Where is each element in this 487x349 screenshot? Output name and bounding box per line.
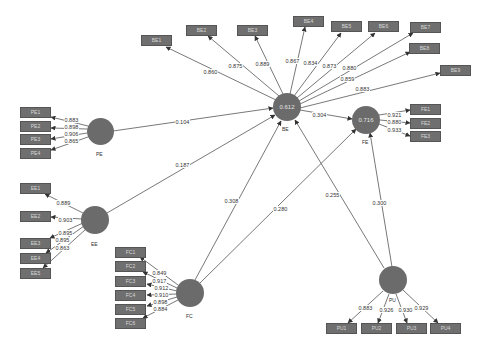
loading-label: 0.867 bbox=[285, 58, 300, 64]
loading-label: 0.883 bbox=[358, 305, 373, 311]
loading-label: 0.889 bbox=[56, 200, 71, 206]
path-coef-ee-be: 0.187 bbox=[175, 162, 190, 168]
loading-label: 0.859 bbox=[340, 76, 355, 82]
path-coef-pu-be: 0.255 bbox=[325, 192, 340, 198]
construct-node-fe[interactable]: 0.716 bbox=[352, 106, 380, 134]
indicator-box-fc3[interactable]: FC3 bbox=[115, 276, 146, 287]
construct-r2: 0.612 bbox=[279, 104, 294, 110]
loading-label: 0.917 bbox=[152, 278, 167, 284]
indicator-box-fc1[interactable]: FC1 bbox=[115, 247, 146, 258]
loading-label: 0.880 bbox=[387, 119, 402, 125]
construct-label-pu: PU bbox=[389, 297, 396, 303]
indicator-box-be5[interactable]: BE5 bbox=[331, 21, 362, 32]
loading-label: 0.906 bbox=[64, 131, 79, 137]
loading-label: 0.889 bbox=[255, 61, 270, 67]
construct-r2: 0.716 bbox=[358, 117, 373, 123]
loading-label: 0.865 bbox=[64, 138, 79, 144]
loading-label: 0.849 bbox=[152, 270, 167, 276]
loading-label: 0.860 bbox=[203, 69, 218, 75]
loading-label: 0.883 bbox=[64, 117, 79, 123]
indicator-box-ee5[interactable]: EE5 bbox=[20, 268, 51, 279]
indicator-box-be7[interactable]: BE7 bbox=[410, 22, 441, 33]
loading-label: 0.910 bbox=[154, 292, 169, 298]
path-coef-fc-fe: 0.280 bbox=[273, 206, 288, 212]
path-coef-pu-fe: 0.300 bbox=[372, 200, 387, 206]
construct-label-be: BE bbox=[282, 126, 289, 132]
loading-label: 0.873 bbox=[322, 63, 337, 69]
loading-label: 0.863 bbox=[55, 245, 70, 251]
indicator-box-be3[interactable]: BE3 bbox=[237, 25, 268, 36]
construct-node-fc[interactable] bbox=[176, 279, 204, 307]
indicator-box-fe2[interactable]: FE2 bbox=[410, 118, 441, 129]
path-coef-be-fe: 0.304 bbox=[312, 112, 327, 118]
construct-label-fc: FC bbox=[186, 313, 193, 319]
indicator-box-ee4[interactable]: EE4 bbox=[20, 253, 51, 264]
indicator-box-pe3[interactable]: PE3 bbox=[20, 134, 51, 145]
loading-label: 0.933 bbox=[387, 127, 402, 133]
indicator-box-pu4[interactable]: PU4 bbox=[430, 323, 461, 334]
loading-label: 0.895 bbox=[58, 230, 73, 236]
loading-label: 0.883 bbox=[355, 86, 370, 92]
indicator-box-ee3[interactable]: EE3 bbox=[20, 238, 51, 249]
indicator-box-pu3[interactable]: PU3 bbox=[396, 323, 427, 334]
indicator-box-ee2[interactable]: EE2 bbox=[20, 211, 51, 222]
indicator-box-pe1[interactable]: PE1 bbox=[20, 107, 51, 118]
indicator-box-be6[interactable]: BE6 bbox=[368, 21, 399, 32]
indicator-box-pe2[interactable]: PE2 bbox=[20, 121, 51, 132]
construct-node-be[interactable]: 0.612 bbox=[273, 93, 301, 121]
construct-label-pe: PE bbox=[96, 151, 103, 157]
loading-label: 0.903 bbox=[58, 217, 73, 223]
loading-label: 0.880 bbox=[342, 65, 357, 71]
indicator-box-be4[interactable]: BE4 bbox=[293, 16, 324, 27]
path-coef-fc-be: 0.308 bbox=[224, 198, 239, 204]
construct-label-fe: FE bbox=[362, 139, 368, 145]
indicator-box-fe1[interactable]: FE1 bbox=[410, 104, 441, 115]
indicator-box-be1[interactable]: BE1 bbox=[141, 35, 172, 46]
loading-label: 0.930 bbox=[398, 307, 413, 313]
path-coef-pe-be: 0.104 bbox=[175, 119, 190, 125]
construct-node-pe[interactable] bbox=[87, 118, 114, 145]
construct-node-pu[interactable] bbox=[379, 266, 407, 294]
loading-label: 0.875 bbox=[228, 63, 243, 69]
indicator-box-ee1[interactable]: EE1 bbox=[20, 183, 51, 194]
indicator-box-fc6[interactable]: FC6 bbox=[115, 318, 146, 329]
construct-label-ee: EE bbox=[91, 241, 98, 247]
indicator-box-be2[interactable]: BE2 bbox=[186, 25, 217, 36]
indicator-box-be8[interactable]: BE8 bbox=[409, 43, 440, 54]
indicator-box-fc2[interactable]: FC2 bbox=[115, 261, 146, 272]
loading-label: 0.898 bbox=[64, 124, 79, 130]
indicator-box-fc5[interactable]: FC5 bbox=[115, 304, 146, 315]
loading-label: 0.884 bbox=[153, 306, 168, 312]
loading-label: 0.926 bbox=[379, 307, 394, 313]
indicator-box-be9[interactable]: BE9 bbox=[440, 65, 471, 76]
loading-label: 0.895 bbox=[55, 237, 70, 243]
construct-node-ee[interactable] bbox=[81, 206, 109, 234]
indicator-box-fc4[interactable]: FC4 bbox=[115, 290, 146, 301]
loading-label: 0.921 bbox=[387, 112, 402, 118]
loading-label: 0.834 bbox=[303, 60, 318, 66]
indicator-box-pe4[interactable]: PE4 bbox=[20, 148, 51, 159]
loading-label: 0.929 bbox=[414, 305, 429, 311]
loading-label: 0.912 bbox=[154, 285, 169, 291]
indicator-box-pu1[interactable]: PU1 bbox=[326, 323, 357, 334]
indicator-box-fe3[interactable]: FE3 bbox=[410, 131, 441, 142]
loading-label: 0.898 bbox=[153, 299, 168, 305]
indicator-box-pu2[interactable]: PU2 bbox=[361, 323, 392, 334]
